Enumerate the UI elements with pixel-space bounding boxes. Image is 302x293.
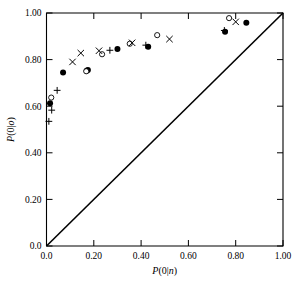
diagonal-identity-line [47, 13, 284, 246]
point-open-circle-5 [226, 16, 231, 21]
series-plus [45, 27, 227, 125]
point-cross-1 [78, 50, 84, 56]
point-filled-circle-4 [114, 46, 120, 52]
y-tick-label-3: 0.60 [25, 102, 42, 112]
point-cross-2 [96, 48, 102, 54]
series-cross [69, 19, 239, 65]
point-cross-5 [233, 19, 239, 25]
x-tick-label-3: 0.60 [180, 251, 197, 261]
y-tick-label-5: 1.00 [25, 8, 42, 18]
y-axis-title: P(0|o) [5, 117, 17, 143]
y-tick-labels: 0.00.200.400.600.801.00 [25, 8, 42, 251]
point-filled-circle-0 [47, 100, 53, 106]
plot-canvas: 0.00.200.400.600.801.00 0.00.200.400.600… [0, 0, 302, 293]
point-open-circle-1 [84, 69, 89, 74]
x-tick-labels: 0.00.200.400.600.801.00 [41, 251, 292, 261]
point-plus-1 [48, 107, 55, 114]
point-open-circle-0 [49, 95, 54, 100]
y-tick-label-0: 0.0 [30, 241, 42, 251]
point-filled-circle-1 [60, 69, 66, 75]
series-filled-circle [47, 20, 249, 106]
point-open-circle-4 [155, 33, 160, 38]
y-tick-label-2: 0.40 [25, 148, 42, 158]
y-axis-title-text: P(0|o) [5, 117, 17, 143]
point-filled-circle-6 [222, 29, 228, 35]
x-axis-title-text: P(0|n) [151, 265, 177, 277]
x-axis-title: P(0|n) [151, 265, 177, 277]
x-tick-label-0: 0.0 [41, 251, 53, 261]
point-plus-3 [106, 47, 113, 54]
data-points [45, 16, 249, 125]
x-tick-label-5: 1.00 [275, 251, 292, 261]
diagonal-identity-line [47, 13, 284, 246]
x-tick-label-1: 0.20 [85, 251, 102, 261]
x-tick-label-4: 0.80 [227, 251, 244, 261]
scatter-plot-figure: 0.00.200.400.600.801.00 0.00.200.400.600… [0, 0, 302, 293]
x-tick-label-2: 0.40 [133, 251, 150, 261]
series-open-circle [49, 16, 232, 101]
point-cross-4 [166, 36, 172, 42]
point-filled-circle-7 [243, 20, 249, 26]
point-cross-0 [69, 59, 75, 65]
point-plus-2 [54, 87, 61, 94]
y-tick-label-1: 0.20 [25, 195, 42, 205]
y-tick-label-4: 0.80 [25, 55, 42, 65]
